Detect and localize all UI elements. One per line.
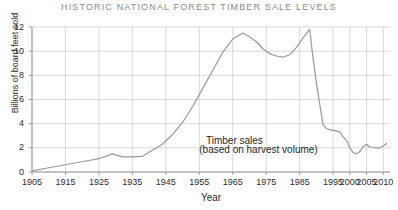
x-tick-label: 1965 [216, 178, 250, 187]
timber-sale-levels-chart: HISTORIC NATIONAL FOREST TIMBER SALE LEV… [0, 0, 398, 210]
x-tick-label: 1945 [149, 178, 183, 187]
x-tick-label: 1935 [115, 178, 149, 187]
chart-annotation: (based on harvest volume) [199, 144, 317, 155]
y-tick-label: 8 [6, 71, 24, 80]
x-tick-label: 2010 [366, 178, 398, 187]
y-tick-label: 4 [6, 119, 24, 128]
x-tick-label: 1955 [182, 178, 216, 187]
x-tick-label: 1905 [15, 178, 49, 187]
y-tick-label: 12 [6, 23, 24, 32]
x-tick-label: 1975 [249, 178, 283, 187]
x-tick-label: 1915 [48, 178, 82, 187]
x-tick-label: 1925 [82, 178, 116, 187]
y-tick-label: 10 [6, 47, 24, 56]
y-tick-label: 0 [6, 168, 24, 177]
y-tick-label: 6 [6, 95, 24, 104]
y-tick-label: 2 [6, 143, 24, 152]
x-tick-label: 1985 [283, 178, 317, 187]
